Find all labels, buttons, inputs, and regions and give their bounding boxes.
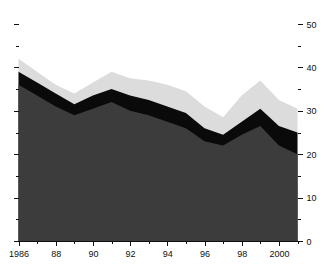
y-tick-label-0: 0 (307, 237, 312, 247)
y-axis-tick-labels: 01020304050 (307, 20, 317, 247)
x-tick-label-1986: 1986 (9, 249, 29, 259)
x-tick-label-1992: 92 (126, 249, 136, 259)
y-tick-label-20: 20 (307, 150, 317, 160)
x-tick-label-1988: 88 (51, 249, 61, 259)
plot-area (19, 59, 298, 241)
y-tick-label-50: 50 (307, 20, 317, 30)
stacked-area-chart: 01020304050 19868890929496982000 (0, 0, 329, 275)
area-series-group (19, 59, 298, 241)
x-axis-tick-labels: 19868890929496982000 (9, 249, 289, 259)
y-tick-label-30: 30 (307, 106, 317, 116)
x-tick-label-1998: 98 (237, 249, 247, 259)
y-tick-label-40: 40 (307, 63, 317, 73)
x-tick-label-1994: 94 (163, 249, 173, 259)
y-tick-label-10: 10 (307, 193, 317, 203)
x-tick-label-2000: 2000 (269, 249, 289, 259)
x-tick-label-1996: 96 (200, 249, 210, 259)
chart-container: 01020304050 19868890929496982000 (0, 0, 329, 275)
x-tick-label-1990: 90 (88, 249, 98, 259)
